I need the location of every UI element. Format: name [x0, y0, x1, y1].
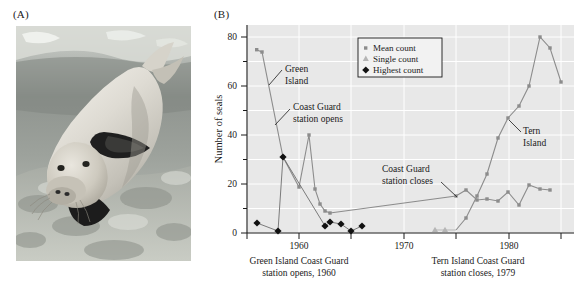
panel-b: (B) [210, 0, 580, 285]
y-tick-label-80: 80 [228, 32, 238, 42]
legend-label-highest-count: Highest count [373, 65, 424, 75]
legend-label-mean-count: Mean count [373, 43, 416, 53]
annotation-tern-island-line2: Island [523, 138, 546, 148]
x-tick-label-1980: 1980 [500, 241, 519, 251]
y-tick-label-0: 0 [232, 228, 237, 238]
seal-photo-graphic [16, 26, 191, 261]
panel-a: (A) [0, 0, 210, 285]
legend-label-single-count: Single count [373, 54, 419, 64]
annotation-cg-opens-line1: Coast Guard [293, 102, 341, 112]
annotation-cg-closes-line2: station closes [382, 176, 433, 186]
caption-green-island-line1: Green Island Coast Guard [250, 256, 349, 266]
annotation-tern-island-line1: Tern [523, 126, 541, 136]
panel-a-letter: (A) [13, 8, 29, 20]
figure-container: (A) [0, 0, 580, 285]
annotation-cg-opens-line2: station opens [293, 114, 343, 124]
caption-tern-island: Tern Island Coast Guard station closes, … [432, 256, 525, 278]
annotation-green-island-line1: Green [285, 64, 308, 74]
chart-legend: Mean count Single count Highest count [358, 38, 442, 77]
seal-photograph [16, 26, 191, 261]
caption-green-island: Green Island Coast Guard station opens, … [250, 256, 349, 278]
caption-tern-island-line1: Tern Island Coast Guard [432, 256, 525, 266]
x-axis-ticks [247, 233, 561, 239]
x-tick-label-1970: 1970 [395, 241, 414, 251]
caption-green-island-line2: station opens, 1960 [262, 268, 336, 278]
annotation-cg-closes-line1: Coast Guard [382, 164, 430, 174]
y-axis-ticks [241, 37, 247, 233]
y-tick-label-40: 40 [228, 130, 238, 140]
x-tick-label-1960: 1960 [290, 241, 309, 251]
seal-count-line-chart: 0 20 40 60 80 Number of seals 1960 1970 … [210, 0, 580, 285]
y-tick-label-20: 20 [228, 179, 238, 189]
y-axis-title: Number of seals [213, 95, 224, 164]
caption-tern-island-line2: station closes, 1979 [441, 268, 516, 278]
annotation-green-island-line2: Island [285, 76, 308, 86]
y-tick-label-60: 60 [228, 81, 238, 91]
